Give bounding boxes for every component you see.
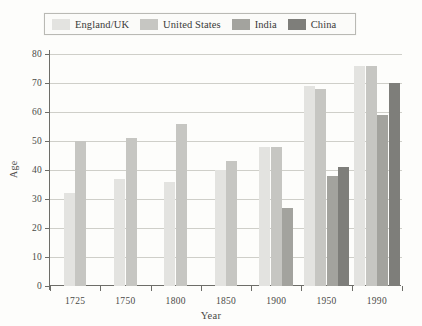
legend-entry: China (288, 19, 337, 30)
legend-swatch-icon (140, 19, 158, 30)
y-tick-label: 10 (16, 252, 42, 262)
x-tick-label: 1850 (216, 296, 236, 306)
y-tick-label: 80 (16, 49, 42, 59)
legend-entry: India (232, 19, 277, 30)
x-tick-mark (402, 286, 403, 291)
life-expectancy-bar-chart: England/UKUnited StatesIndiaChina 010203… (0, 0, 422, 326)
x-tick-mark (151, 286, 152, 291)
legend-entry: United States (140, 19, 221, 30)
x-tick-mark (251, 286, 252, 291)
bar (377, 115, 388, 286)
legend-swatch-icon (232, 19, 250, 30)
y-tick-label: 30 (16, 194, 42, 204)
legend-label: United States (163, 19, 221, 30)
bar (354, 66, 365, 286)
x-tick-mark (352, 286, 353, 291)
x-axis-label: Year (0, 310, 422, 321)
x-tick-label: 1725 (65, 296, 85, 306)
legend-label: China (311, 19, 337, 30)
legend-entry: England/UK (52, 19, 129, 30)
y-tick-label: 0 (16, 281, 42, 291)
legend-swatch-icon (288, 19, 306, 30)
x-tick-label: 1750 (115, 296, 135, 306)
plot-area: 0102030405060708017251750180018501900195… (50, 54, 402, 286)
legend-label: England/UK (75, 19, 129, 30)
chart-legend: England/UKUnited StatesIndiaChina (44, 13, 356, 35)
x-tick-mark (50, 286, 51, 291)
x-tick-label: 1990 (367, 296, 387, 306)
y-tick-label: 70 (16, 78, 42, 88)
bar (366, 66, 377, 286)
y-tick-label: 40 (16, 165, 42, 175)
x-tick-mark (301, 286, 302, 291)
legend-label: India (255, 19, 277, 30)
y-tick-label: 50 (16, 136, 42, 146)
legend-swatch-icon (52, 19, 70, 30)
x-tick-label: 1800 (166, 296, 186, 306)
x-tick-mark (201, 286, 202, 291)
x-tick-label: 1900 (266, 296, 286, 306)
bar (389, 83, 400, 286)
y-tick-label: 20 (16, 223, 42, 233)
y-tick-label: 60 (16, 107, 42, 117)
x-tick-mark (100, 286, 101, 291)
x-tick-label: 1950 (316, 296, 336, 306)
y-axis-label: Age (8, 160, 19, 178)
bar-group (50, 54, 402, 286)
